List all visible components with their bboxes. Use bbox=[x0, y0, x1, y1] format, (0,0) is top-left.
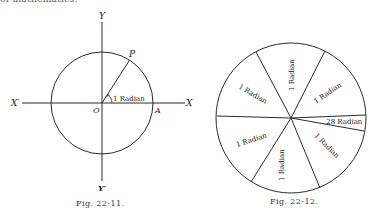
spoke-3 bbox=[217, 116, 291, 118]
sector-label-top: 1 Radian bbox=[288, 59, 296, 91]
spoke-2 bbox=[256, 52, 291, 118]
label-y: Y bbox=[99, 11, 106, 21]
sector-label-bottom: 1 Radian bbox=[278, 149, 286, 181]
label-a: A bbox=[154, 106, 161, 115]
figures-canvas: Y Y′ X X′ O A P 1 Radian Fig. 22-11. 1 R… bbox=[0, 0, 376, 219]
sector-label-lower-left: 1 Radian bbox=[235, 131, 268, 149]
figure-22-11: Y Y′ X X′ O A P 1 Radian Fig. 22-11. bbox=[10, 11, 193, 208]
figure-22-12: 1 Radian 1 Radian 1 Radian 1 Radian 1 Ra… bbox=[216, 43, 366, 206]
sector-label-upper-right: 1 Radian bbox=[313, 81, 344, 106]
caption-fig-22-11: Fig. 22-11. bbox=[76, 199, 124, 208]
label-angle: 1 Radian bbox=[113, 95, 145, 103]
spoke-5 bbox=[291, 118, 320, 188]
label-x: X bbox=[185, 98, 193, 108]
caption-fig-22-12: Fig. 22-12. bbox=[270, 197, 318, 206]
sector-label-upper-left: 1 Radian bbox=[237, 83, 269, 106]
label-x-prime: X′ bbox=[10, 98, 19, 108]
sector-label-lower-right: 1 Radian bbox=[313, 132, 341, 160]
spoke-1 bbox=[291, 51, 325, 118]
angle-arc bbox=[107, 95, 112, 103]
textbook-page: of mathematics. Y Y′ X X′ O A P 1 Radian… bbox=[0, 0, 376, 219]
label-p: P bbox=[128, 49, 136, 59]
sector-label-fraction: .28 Radian bbox=[324, 118, 363, 126]
label-y-prime: Y′ bbox=[98, 183, 107, 193]
label-origin: O bbox=[93, 106, 100, 115]
